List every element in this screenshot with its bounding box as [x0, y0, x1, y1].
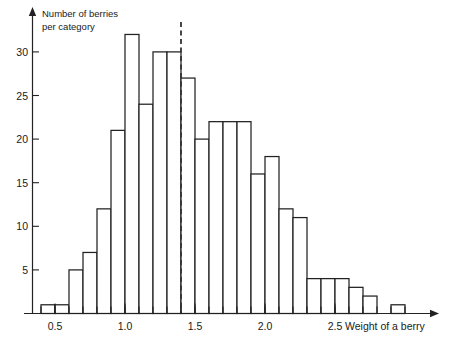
bars-group	[41, 34, 405, 313]
histogram-bar	[251, 174, 265, 314]
x-axis-arrow-icon	[430, 310, 439, 317]
x-tick-label: 2.0	[258, 320, 273, 332]
histogram-bar	[111, 130, 125, 313]
histogram-bar	[139, 104, 153, 313]
histogram-bar	[41, 305, 55, 314]
histogram-bar	[237, 122, 251, 314]
x-tick-label: 1.0	[118, 320, 133, 332]
histogram-bar	[209, 122, 223, 314]
y-tick-label: 20	[16, 133, 28, 145]
histogram-bar	[335, 279, 349, 314]
y-axis-label-line1: Number of berries	[42, 8, 118, 19]
histogram-bar	[55, 305, 69, 314]
y-axis-label-line2: per category	[42, 21, 95, 32]
histogram-bar	[363, 296, 377, 313]
histogram-bar	[195, 139, 209, 313]
histogram-bar	[349, 287, 363, 313]
x-tick-label: 1.5	[188, 320, 203, 332]
histogram-bar	[223, 122, 237, 314]
y-tick-label: 10	[16, 220, 28, 232]
histogram-bar	[69, 270, 83, 314]
x-axis-label: Weight of a berry	[345, 320, 426, 332]
histogram-bar	[167, 52, 181, 314]
histogram-bar	[125, 34, 139, 313]
histogram-bar	[391, 305, 405, 314]
histogram-bar	[181, 78, 195, 313]
histogram-bar	[279, 209, 293, 314]
y-tick-label: 30	[16, 46, 28, 58]
histogram-bar	[153, 52, 167, 314]
y-ticks-group: 51015202530	[16, 46, 39, 276]
y-axis-arrow-icon	[29, 7, 36, 16]
x-tick-label: 2.5	[328, 320, 343, 332]
x-tick-label: 0.5	[48, 320, 63, 332]
histogram-chart: 51015202530 0.51.01.52.02.5 Number of be…	[0, 0, 449, 337]
y-tick-label: 5	[22, 264, 28, 276]
histogram-bar	[307, 279, 321, 314]
chart-page: 51015202530 0.51.01.52.02.5 Number of be…	[0, 0, 449, 337]
histogram-bar	[83, 252, 97, 313]
histogram-bar	[321, 279, 335, 314]
y-axis-group: 51015202530	[16, 7, 39, 314]
histogram-bar	[293, 218, 307, 314]
histogram-bar	[97, 209, 111, 314]
y-tick-label: 25	[16, 90, 28, 102]
y-tick-label: 15	[16, 177, 28, 189]
histogram-bar	[265, 157, 279, 314]
